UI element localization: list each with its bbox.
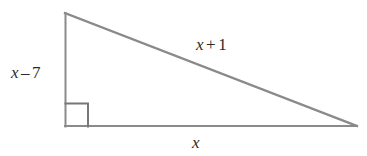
right-triangle-svg (0, 0, 367, 156)
label-vertical-leg-variable: x (11, 63, 19, 82)
label-hypotenuse-variable: x (196, 35, 204, 54)
label-hypotenuse: x+1 (196, 36, 227, 53)
hypotenuse-line (65, 13, 357, 126)
label-horizontal-leg-variable: x (192, 133, 200, 152)
right-angle-marker-icon (66, 104, 89, 127)
triangle-outline (65, 13, 357, 127)
label-vertical-leg-operator: – (19, 63, 32, 82)
label-horizontal-leg: x (192, 134, 200, 151)
label-vertical-leg: x–7 (11, 64, 41, 81)
label-hypotenuse-operator: + (204, 35, 218, 54)
label-vertical-leg-number: 7 (32, 63, 41, 82)
label-hypotenuse-number: 1 (218, 35, 227, 54)
geometry-figure: x–7 x+1 x (0, 0, 367, 156)
